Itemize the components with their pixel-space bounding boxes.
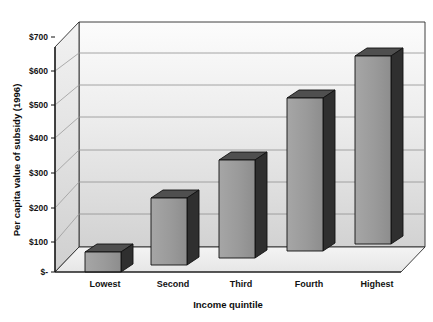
y-axis-tick-labels: $700 $600 $500 $400 $300 $200 $100 $- <box>29 32 48 277</box>
y-tick-label-400: $400 <box>29 133 48 143</box>
plot-left-wall <box>55 22 79 272</box>
y-tick-label-600: $600 <box>29 66 48 76</box>
bar-highest-front <box>355 56 391 244</box>
x-tick-label-highest: Highest <box>360 279 393 289</box>
x-axis-title-text: Income quintile <box>193 299 263 310</box>
bar-second-front <box>151 198 187 265</box>
y-tick-label-300: $300 <box>29 168 48 178</box>
y-tick-label-100: $100 <box>29 237 48 247</box>
bar-third-side <box>255 152 267 258</box>
y-tick-label-500: $500 <box>29 100 48 110</box>
bar-third-front <box>219 160 255 258</box>
bar-lowest-front <box>85 252 121 272</box>
x-tick-label-second: Second <box>157 279 190 289</box>
x-tick-label-lowest: Lowest <box>89 279 120 289</box>
chart-canvas: $700 $600 $500 $400 $300 $200 $100 $- Pe… <box>0 0 433 322</box>
bar-fourth[interactable] <box>287 90 335 251</box>
bar-highest-side <box>391 48 403 244</box>
bar-fourth-side <box>323 90 335 251</box>
bar-fourth-front <box>287 98 323 251</box>
y-axis-title-text: Per capita value of subsidy (1996) <box>11 84 22 237</box>
x-tick-label-fourth: Fourth <box>295 279 324 289</box>
y-tick-label-200: $200 <box>29 203 48 213</box>
y-tick-label-0: $- <box>40 267 48 277</box>
y-tick-label-700: $700 <box>29 32 48 42</box>
bar-lowest[interactable] <box>85 244 133 272</box>
bar-highest[interactable] <box>355 48 403 244</box>
x-axis-tick-labels: Lowest Second Third Fourth Highest <box>89 279 393 289</box>
bar-second[interactable] <box>151 190 199 265</box>
bar-chart-figure: $700 $600 $500 $400 $300 $200 $100 $- Pe… <box>0 0 433 322</box>
x-axis-title: Income quintile <box>193 299 263 310</box>
bar-second-side <box>187 190 199 265</box>
bar-third[interactable] <box>219 152 267 258</box>
x-tick-label-third: Third <box>230 279 253 289</box>
y-axis-title: Per capita value of subsidy (1996) <box>11 84 22 237</box>
